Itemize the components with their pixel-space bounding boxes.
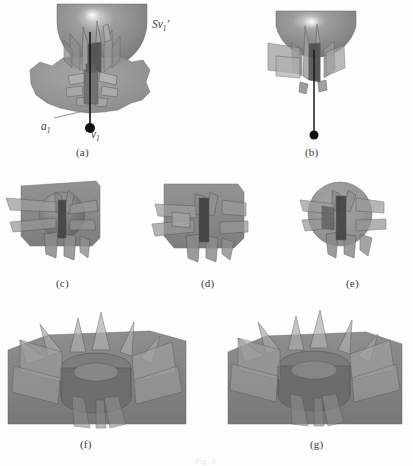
panel-label-e: (e) [346, 277, 359, 289]
a1-label: a1 [41, 120, 51, 135]
panel-label-d: (d) [201, 277, 214, 289]
panel-e-graphic [300, 182, 386, 258]
a1-leader-line [54, 110, 88, 118]
panel-label-a: (a) [76, 146, 89, 158]
panel-label-g: (g) [310, 438, 323, 450]
panel-a-graphic [30, 4, 150, 133]
panel-g-graphic [228, 310, 402, 426]
vertex-dot-b [310, 131, 319, 140]
inner-ring-f [74, 363, 118, 381]
panel-label-f: (f) [80, 438, 92, 450]
panel-b-graphic [268, 11, 356, 140]
panel-f-graphic [8, 312, 186, 428]
figure-caption-cropped: Fig. 4. [0, 456, 413, 466]
sv1-prime-label: Sv1′ [152, 18, 169, 33]
panel-label-c: (c) [56, 277, 69, 289]
specular-highlight [83, 8, 101, 22]
multipanel-figure [0, 0, 413, 466]
panel-d-graphic [152, 184, 248, 262]
panel-label-b: (b) [305, 146, 318, 158]
panel-c-graphic [6, 181, 100, 260]
inner-ring-g [291, 361, 337, 379]
v1-label: v1 [91, 128, 100, 143]
